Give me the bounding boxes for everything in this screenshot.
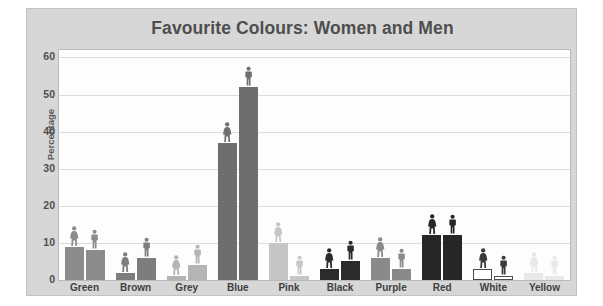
male-marker	[142, 237, 151, 257]
bar-rect[interactable]	[290, 276, 309, 280]
bar-rect[interactable]	[524, 273, 543, 280]
male-figure-icon	[346, 240, 355, 260]
chart-figure: Favourite Colours: Women and Men Percent…	[26, 8, 577, 296]
x-tick-label-white: White	[480, 282, 507, 293]
bar-red-men[interactable]	[443, 50, 462, 280]
bar-rect[interactable]	[218, 143, 237, 280]
bar-pink-men[interactable]	[290, 50, 309, 280]
bar-group	[468, 50, 519, 280]
bar-rect[interactable]	[545, 276, 564, 280]
bar-group	[417, 50, 468, 280]
bar-yellow-women[interactable]	[524, 50, 543, 280]
x-tick-label-brown: Brown	[120, 282, 151, 293]
bar-rect[interactable]	[443, 235, 462, 280]
male-marker	[90, 229, 99, 249]
female-marker	[222, 122, 232, 142]
x-tick-label-green: Green	[70, 282, 99, 293]
bar-rect[interactable]	[86, 250, 105, 280]
y-tick-label: 30	[29, 162, 55, 174]
bar-purple-men[interactable]	[392, 50, 411, 280]
male-figure-icon	[244, 66, 253, 86]
bar-group	[212, 50, 263, 280]
female-marker	[529, 252, 539, 272]
male-marker	[193, 244, 202, 264]
bar-brown-women[interactable]	[116, 50, 135, 280]
bar-grey-men[interactable]	[188, 50, 207, 280]
male-figure-icon	[90, 229, 99, 249]
x-tick-label-pink: Pink	[278, 282, 299, 293]
bar-blue-men[interactable]	[239, 50, 258, 280]
male-figure-icon	[397, 248, 406, 268]
bar-black-women[interactable]	[320, 50, 339, 280]
bar-rect[interactable]	[494, 276, 513, 280]
female-marker	[69, 226, 79, 246]
x-axis-labels: GreenBrownGreyBluePinkBlackPurpleRedWhit…	[59, 282, 570, 296]
y-tick-label: 50	[29, 88, 55, 100]
bar-group	[161, 50, 212, 280]
bar-rect[interactable]	[371, 258, 390, 280]
bar-purple-women[interactable]	[371, 50, 390, 280]
y-tick-label: 40	[29, 125, 55, 137]
bar-series-container	[59, 50, 570, 280]
bar-rect[interactable]	[422, 235, 441, 280]
x-tick-label-blue: Blue	[227, 282, 249, 293]
bar-rect[interactable]	[65, 247, 84, 280]
female-marker	[324, 248, 334, 268]
bar-pink-women[interactable]	[269, 50, 288, 280]
female-figure-icon	[478, 248, 488, 268]
bar-black-men[interactable]	[341, 50, 360, 280]
female-figure-icon	[222, 122, 232, 142]
bar-group	[263, 50, 314, 280]
female-marker	[375, 237, 385, 257]
bar-rect[interactable]	[137, 258, 156, 280]
bar-yellow-men[interactable]	[545, 50, 564, 280]
female-marker	[120, 252, 130, 272]
y-tick-label: 0	[29, 273, 55, 285]
female-figure-icon	[375, 237, 385, 257]
bar-rect[interactable]	[341, 261, 360, 280]
bar-rect[interactable]	[116, 273, 135, 280]
y-axis-ticks: 0102030405060	[27, 49, 55, 281]
bar-white-men[interactable]	[494, 50, 513, 280]
bar-white-women[interactable]	[473, 50, 492, 280]
female-marker	[171, 255, 181, 275]
bar-rect[interactable]	[269, 243, 288, 280]
male-marker	[244, 66, 253, 86]
male-marker	[346, 240, 355, 260]
male-marker	[397, 248, 406, 268]
female-marker	[273, 222, 283, 242]
bar-rect[interactable]	[392, 269, 411, 280]
male-figure-icon	[295, 255, 304, 275]
x-tick-label-yellow: Yellow	[529, 282, 560, 293]
x-tick-label-grey: Grey	[175, 282, 198, 293]
male-figure-icon	[142, 237, 151, 257]
y-tick-label: 10	[29, 236, 55, 248]
female-figure-icon	[427, 214, 437, 234]
bar-rect[interactable]	[188, 265, 207, 280]
bar-red-women[interactable]	[422, 50, 441, 280]
bar-brown-men[interactable]	[137, 50, 156, 280]
bar-green-women[interactable]	[65, 50, 84, 280]
bar-group	[366, 50, 417, 280]
bar-rect[interactable]	[473, 269, 492, 280]
female-figure-icon	[324, 248, 334, 268]
female-figure-icon	[273, 222, 283, 242]
male-figure-icon	[448, 214, 457, 234]
bar-rect[interactable]	[167, 276, 186, 280]
male-marker	[448, 214, 457, 234]
x-tick-label-purple: Purple	[376, 282, 407, 293]
bar-rect[interactable]	[320, 269, 339, 280]
x-tick-label-red: Red	[433, 282, 452, 293]
bar-rect[interactable]	[239, 87, 258, 280]
bar-green-men[interactable]	[86, 50, 105, 280]
bar-blue-women[interactable]	[218, 50, 237, 280]
y-tick-label: 60	[29, 50, 55, 62]
male-figure-icon	[550, 255, 559, 275]
male-figure-icon	[193, 244, 202, 264]
chart-title: Favourite Colours: Women and Men	[27, 18, 578, 39]
bar-group	[315, 50, 366, 280]
bar-grey-women[interactable]	[167, 50, 186, 280]
bar-group	[59, 50, 110, 280]
bar-group	[519, 50, 570, 280]
female-figure-icon	[120, 252, 130, 272]
